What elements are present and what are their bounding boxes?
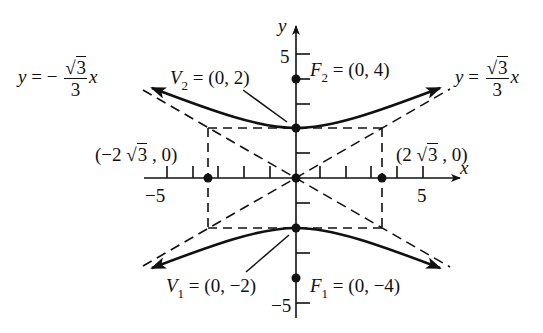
asymptote-right-num: 3 [497,56,508,78]
leader-lines [243,90,289,272]
point-f1 [292,274,301,283]
point-origin [292,174,301,183]
y-axis-label: y [278,16,286,35]
point-f2 [292,75,301,84]
v1-leader [246,235,289,272]
asymptote-right-label: y = √33x [455,58,519,99]
asymptote-right-lhs: = [463,66,483,87]
x-tick-label-5: 5 [417,186,427,205]
v2-label: V2 = (0, 2) [170,68,249,87]
f2-label: F2 = (0, 4) [310,60,389,79]
asymptote-left-den: 3 [64,79,87,99]
lower-branch-right [296,228,440,268]
point-v1 [292,224,301,233]
point-v2 [292,124,301,133]
asymptote-left-num: 3 [76,56,87,78]
point-left-vertex-x [204,174,213,183]
point-right-vertex-x [378,174,387,183]
left-point-label: (−2 √3 , 0) [95,145,177,164]
asymptote-left-lhs: = − [26,66,57,87]
right-point-label: (2 √3 , 0) [396,145,468,164]
asymptote-left-var: x [89,66,97,87]
asymptote-left-label: y = − √33x [18,58,98,99]
v1-label: V1 = (0, −2) [166,276,256,295]
y-tick-label-neg5: −5 [271,296,291,315]
f1-label: F1 = (0, −4) [310,276,400,295]
y-tick-label-5: 5 [280,47,290,66]
asymptote-right-den: 3 [486,79,509,99]
x-axis [144,166,460,178]
v2-leader [243,90,287,122]
upper-branch-right [296,88,440,128]
asymptote-right-var: x [511,66,519,87]
x-tick-label-neg5: −5 [145,186,165,205]
